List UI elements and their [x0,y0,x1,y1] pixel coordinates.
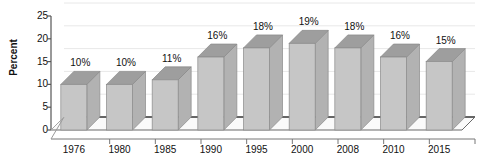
x-axis-tick-label: 1985 [143,144,187,155]
bar-value-label: 16% [200,30,234,41]
bar-value-label: 10% [63,57,97,68]
bar-value-label: 18% [337,21,371,32]
x-axis-tick-label: 1976 [52,144,96,155]
x-axis-tick-label: 2000 [280,144,324,155]
bar-chart: Percent 0510152025 10%197610%198011%1985… [0,0,493,166]
x-axis-tick-label: 2015 [417,144,461,155]
bar-value-label: 15% [429,35,463,46]
x-axis-tick-label: 1990 [189,144,233,155]
bar-value-label: 10% [109,57,143,68]
x-axis-tick-label: 1980 [98,144,142,155]
x-axis-tick-label: 1995 [235,144,279,155]
bar-column [198,44,237,130]
bar-column [289,30,328,130]
x-axis-tick-label: 2010 [372,144,416,155]
bar-column [335,35,374,130]
bar-column [381,44,420,130]
bar-value-label: 18% [246,21,280,32]
bar-value-label: 19% [292,16,326,27]
bar-column [244,35,283,130]
bar-column [61,71,100,130]
bar-value-label: 16% [383,30,417,41]
bar-column [107,71,146,130]
bar-column [426,49,465,130]
bar-value-label: 11% [155,53,189,64]
bar-column [152,67,191,130]
x-axis-tick-label: 2008 [326,144,370,155]
